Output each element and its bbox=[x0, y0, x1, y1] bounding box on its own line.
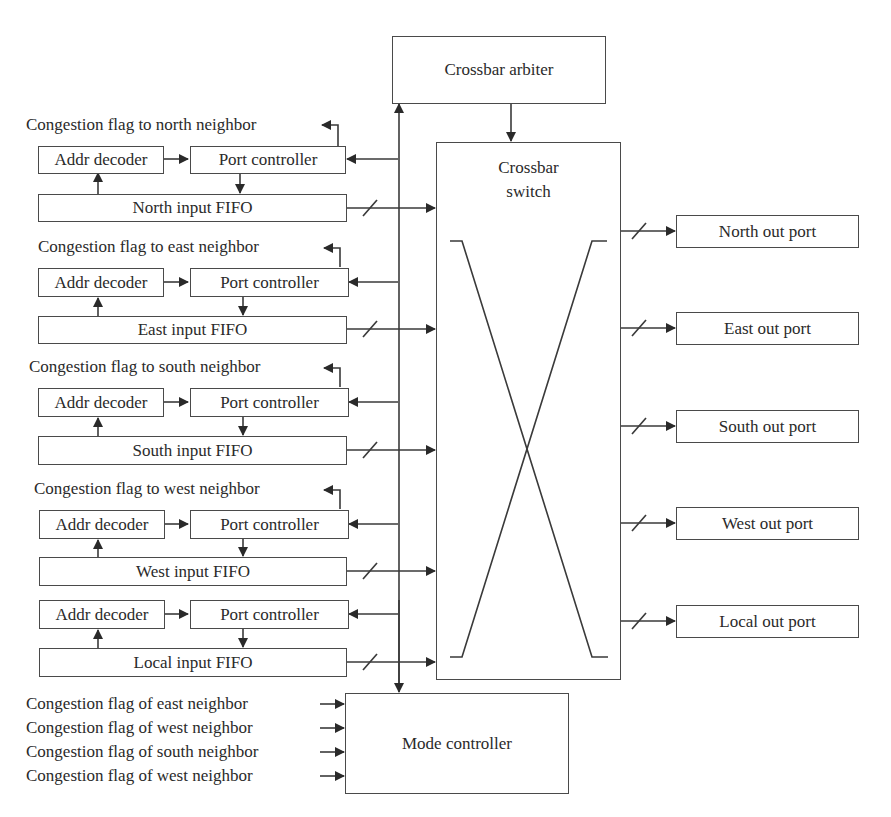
addr-decoder-label: Addr decoder bbox=[56, 605, 149, 625]
port-controller-label: Port controller bbox=[220, 515, 319, 535]
crossbar-switch-label-line2: switch bbox=[436, 180, 621, 204]
south-addr-decoder: Addr decoder bbox=[38, 388, 164, 417]
out-port-label: South out port bbox=[719, 417, 816, 437]
west-addr-decoder: Addr decoder bbox=[39, 510, 165, 539]
local-input-fifo: Local input FIFO bbox=[39, 648, 347, 677]
east-congestion-flag-label: Congestion flag to east neighbor bbox=[38, 237, 259, 257]
fifo-label: South input FIFO bbox=[133, 441, 253, 461]
addr-decoder-label: Addr decoder bbox=[55, 393, 148, 413]
addr-decoder-label: Addr decoder bbox=[55, 150, 148, 170]
crossbar-switch-box bbox=[436, 142, 621, 680]
out-port-label: West out port bbox=[722, 514, 813, 534]
west-input-fifo: West input FIFO bbox=[39, 557, 347, 586]
fifo-label: West input FIFO bbox=[136, 562, 250, 582]
port-controller-label: Port controller bbox=[220, 273, 319, 293]
east-port-controller: Port controller bbox=[190, 268, 349, 297]
east-input-fifo: East input FIFO bbox=[38, 316, 347, 344]
west-congestion-flag-label: Congestion flag to west neighbor bbox=[34, 479, 260, 499]
out-port-label: East out port bbox=[724, 319, 811, 339]
north-out-port: North out port bbox=[676, 215, 859, 248]
fifo-label: Local input FIFO bbox=[134, 653, 253, 673]
fifo-label: East input FIFO bbox=[138, 320, 248, 340]
mode-input-label-south: Congestion flag of south neighbor bbox=[26, 742, 258, 762]
addr-decoder-label: Addr decoder bbox=[56, 515, 149, 535]
crossbar-arbiter-box: Crossbar arbiter bbox=[392, 36, 606, 104]
north-addr-decoder: Addr decoder bbox=[38, 146, 164, 174]
mode-input-wires bbox=[320, 704, 344, 776]
mode-input-label-west-2: Congestion flag of west neighbor bbox=[26, 766, 253, 786]
north-congestion-flag-label: Congestion flag to north neighbor bbox=[26, 115, 256, 135]
crossbar-arbiter-label: Crossbar arbiter bbox=[444, 60, 553, 80]
output-wires bbox=[620, 223, 675, 629]
crossbar-switch-label: Crossbar switch bbox=[436, 156, 621, 204]
local-addr-decoder: Addr decoder bbox=[39, 600, 165, 629]
east-addr-decoder: Addr decoder bbox=[38, 268, 164, 297]
east-out-port: East out port bbox=[676, 312, 859, 345]
out-port-label: North out port bbox=[719, 222, 816, 242]
fifo-label: North input FIFO bbox=[133, 198, 253, 218]
port-controller-label: Port controller bbox=[219, 150, 318, 170]
mode-controller-box: Mode controller bbox=[345, 693, 569, 794]
west-port-controller: Port controller bbox=[190, 510, 349, 539]
local-port-controller: Port controller bbox=[190, 600, 349, 629]
west-out-port: West out port bbox=[676, 507, 859, 540]
mode-controller-label: Mode controller bbox=[402, 734, 512, 754]
mode-input-label-east: Congestion flag of east neighbor bbox=[26, 694, 248, 714]
out-port-label: Local out port bbox=[719, 612, 815, 632]
port-controller-label: Port controller bbox=[220, 393, 319, 413]
north-input-fifo: North input FIFO bbox=[38, 194, 347, 222]
north-port-controller: Port controller bbox=[190, 146, 346, 174]
crossbar-switch-label-line1: Crossbar bbox=[436, 156, 621, 180]
south-out-port: South out port bbox=[676, 410, 859, 443]
south-port-controller: Port controller bbox=[190, 388, 349, 417]
south-congestion-flag-label: Congestion flag to south neighbor bbox=[29, 357, 260, 377]
port-controller-label: Port controller bbox=[220, 605, 319, 625]
south-input-fifo: South input FIFO bbox=[38, 436, 347, 465]
mode-input-label-west: Congestion flag of west neighbor bbox=[26, 718, 253, 738]
local-out-port: Local out port bbox=[676, 605, 859, 638]
addr-decoder-label: Addr decoder bbox=[55, 273, 148, 293]
